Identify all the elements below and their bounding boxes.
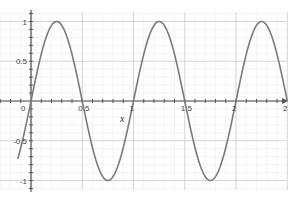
x-tick-label: 0 (21, 104, 26, 113)
y-tick-label: -1 (20, 177, 28, 186)
x-tick-label: 0.5 (78, 104, 90, 113)
y-tick-label: 1 (23, 18, 28, 27)
x-tick-label: 2 (232, 104, 237, 113)
x-axis-end-label: 2 (283, 104, 288, 113)
x-axis-label: x (119, 113, 125, 124)
sine-chart: 00.511.52210.5-0.5-1 x (0, 0, 299, 199)
x-tick-label: 1.5 (181, 104, 193, 113)
y-tick-label: 0.5 (16, 57, 28, 66)
y-tick-label: -0.5 (13, 137, 27, 146)
x-tick-label: 1 (130, 104, 135, 113)
